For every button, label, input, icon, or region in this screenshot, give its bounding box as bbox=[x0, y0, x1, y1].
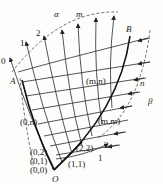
beta-arrows bbox=[108, 38, 150, 147]
O-label: O bbox=[52, 174, 59, 184]
n-label: n bbox=[140, 78, 145, 88]
alpha-label: α bbox=[54, 9, 59, 19]
B-label: B bbox=[126, 24, 132, 34]
beta-line-1-label: 1 bbox=[98, 153, 103, 163]
node-0-n-label: (0,n) bbox=[20, 117, 37, 127]
m-label: m bbox=[76, 9, 83, 19]
A-label: A bbox=[9, 76, 16, 86]
beta-label: β bbox=[147, 96, 153, 106]
node-2-2-label: (2,2) bbox=[76, 143, 93, 153]
node-m-m-label: (m,m) bbox=[98, 116, 120, 126]
node-0-0-label: (0,0) bbox=[30, 165, 47, 175]
diagram-canvas: α m β n A B O 0 1 2 1 2 (0,n) (0,2) (0,1… bbox=[0, 0, 163, 184]
node-m-n-label: (m,n) bbox=[86, 76, 106, 86]
alpha-line-2-label: 2 bbox=[36, 28, 41, 38]
node-1-1-label: (1,1) bbox=[68, 159, 85, 169]
alpha-line-0-label: 0 bbox=[1, 56, 6, 66]
alpha-dashed-boundary bbox=[12, 12, 118, 72]
beta-line-2-label: 2 bbox=[104, 140, 109, 150]
alpha-line-1-label: 1 bbox=[20, 38, 25, 48]
characteristic-net-diagram: α m β n A B O 0 1 2 1 2 (0,n) (0,2) (0,1… bbox=[0, 0, 163, 184]
